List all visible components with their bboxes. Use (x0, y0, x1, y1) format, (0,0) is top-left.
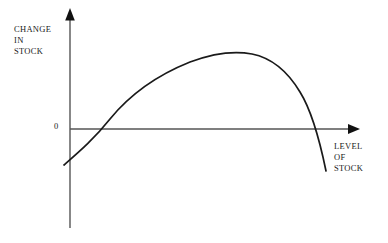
x-axis-title-line-2: OF (334, 152, 363, 163)
x-axis-title-line-3: STOCK (334, 163, 363, 174)
x-axis-title: LEVEL OF STOCK (334, 141, 363, 174)
y-axis-title-line-3: STOCK (14, 46, 51, 57)
x-axis-title-line-1: LEVEL (334, 141, 363, 152)
y-axis-title-line-2: IN (14, 35, 51, 46)
y-axis-title: CHANGE IN STOCK (14, 24, 51, 57)
y-axis-title-line-1: CHANGE (14, 24, 51, 35)
zero-tick-label: 0 (54, 121, 58, 131)
